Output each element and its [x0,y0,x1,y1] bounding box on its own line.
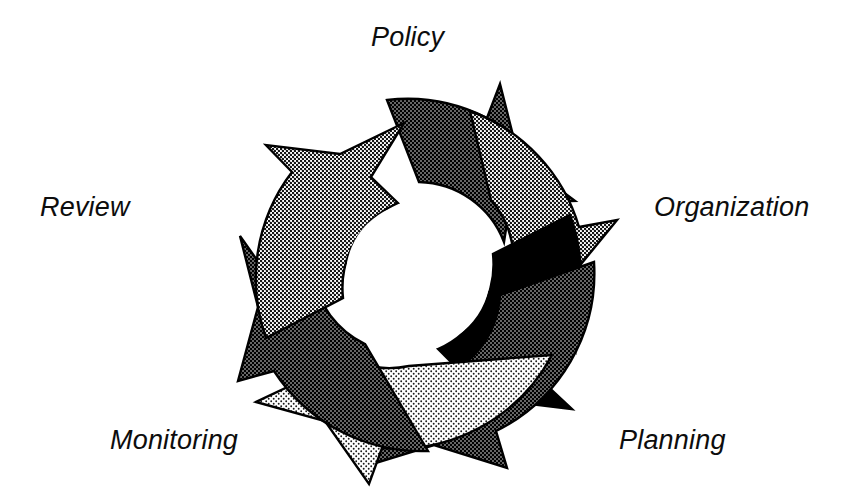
stage-label-policy: Policy [371,24,444,51]
stage-label-planning: Planning [619,427,726,454]
diagram-canvas: Policy Organization Planning Monitoring … [0,0,861,500]
ring-center-hole [346,203,490,347]
arrow-ring [238,84,617,484]
stage-label-organization: Organization [654,194,810,221]
stage-label-monitoring: Monitoring [110,427,238,454]
stage-label-review: Review [40,194,130,221]
